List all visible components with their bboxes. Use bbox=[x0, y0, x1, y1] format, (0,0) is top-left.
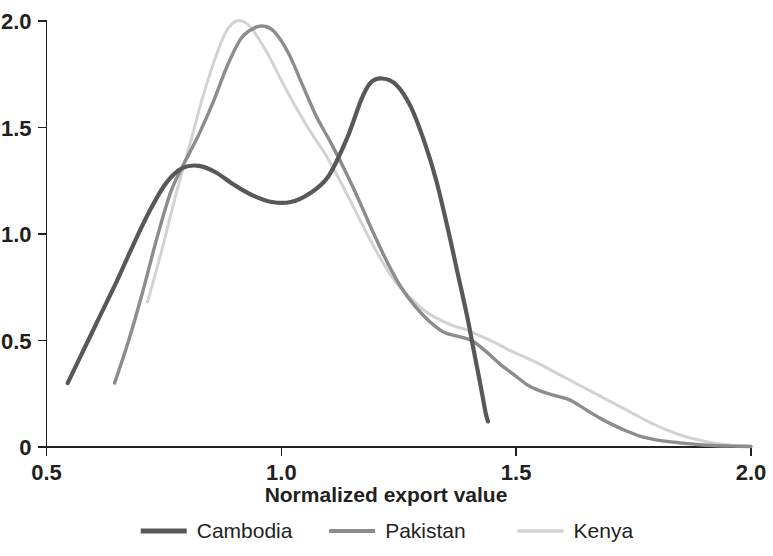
legend-label-pakistan: Pakistan bbox=[385, 519, 466, 542]
y-tick-label-1: 0.5 bbox=[1, 329, 32, 354]
chart-canvas: 00.51.01.52.0 0.51.01.52.0 Normalized ex… bbox=[0, 0, 773, 556]
series-line-pakistan bbox=[115, 26, 751, 447]
y-axis-tick-labels: 00.51.01.52.0 bbox=[1, 9, 32, 460]
y-tick-label-3: 1.5 bbox=[1, 116, 32, 141]
y-axis-ticks bbox=[38, 21, 47, 447]
x-tick-label-3: 2.0 bbox=[736, 460, 767, 485]
y-tick-label-2: 1.0 bbox=[1, 222, 32, 247]
legend-label-cambodia: Cambodia bbox=[197, 519, 293, 542]
x-axis-title: Normalized export value bbox=[265, 483, 508, 506]
chart-legend: CambodiaPakistanKenya bbox=[141, 519, 634, 542]
legend-label-kenya: Kenya bbox=[574, 519, 634, 542]
x-tick-label-0: 0.5 bbox=[31, 460, 62, 485]
x-tick-label-2: 1.5 bbox=[501, 460, 532, 485]
series-line-cambodia bbox=[68, 78, 488, 421]
y-tick-label-0: 0 bbox=[19, 435, 31, 460]
data-series-group bbox=[68, 21, 751, 447]
density-plot-figure: 00.51.01.52.0 0.51.01.52.0 Normalized ex… bbox=[0, 0, 773, 556]
x-tick-label-1: 1.0 bbox=[266, 460, 297, 485]
x-axis-tick-labels: 0.51.01.52.0 bbox=[31, 460, 766, 485]
y-tick-label-4: 2.0 bbox=[1, 9, 32, 34]
x-axis-ticks bbox=[47, 447, 752, 456]
